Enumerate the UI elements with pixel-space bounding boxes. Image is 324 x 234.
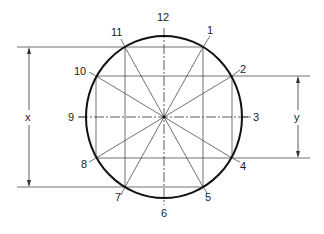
circle-division-diagram: x y 1 2 3 4 5 6 7 8 9 10 11 12 xyxy=(0,0,324,234)
leader-7 xyxy=(121,187,125,195)
label-5: 5 xyxy=(205,191,211,203)
label-7: 7 xyxy=(115,191,121,203)
label-6: 6 xyxy=(161,207,167,219)
dimension-y-label: y xyxy=(294,111,300,123)
label-10: 10 xyxy=(74,65,86,77)
dimension-x-label: x xyxy=(25,111,31,123)
label-4: 4 xyxy=(240,160,246,172)
label-11: 11 xyxy=(111,26,122,38)
dimension-x: x xyxy=(25,47,31,187)
leader-11 xyxy=(121,39,125,47)
label-9: 9 xyxy=(68,111,74,123)
label-12: 12 xyxy=(157,11,169,23)
label-1: 1 xyxy=(207,24,213,36)
leader-8 xyxy=(89,158,96,162)
label-2: 2 xyxy=(240,63,246,75)
arrow-down-icon xyxy=(296,151,300,158)
leader-4 xyxy=(232,158,240,162)
point-labels: 1 2 3 4 5 6 7 8 9 10 11 12 xyxy=(68,11,259,219)
label-3: 3 xyxy=(253,111,259,123)
leader-10 xyxy=(89,72,96,76)
leader-2 xyxy=(232,70,240,76)
label-8: 8 xyxy=(81,158,87,170)
arrow-down-icon xyxy=(27,180,31,187)
center-point xyxy=(162,115,165,118)
leader-1 xyxy=(203,36,210,47)
arrow-up-icon xyxy=(27,47,31,54)
arrow-up-icon xyxy=(296,76,300,83)
